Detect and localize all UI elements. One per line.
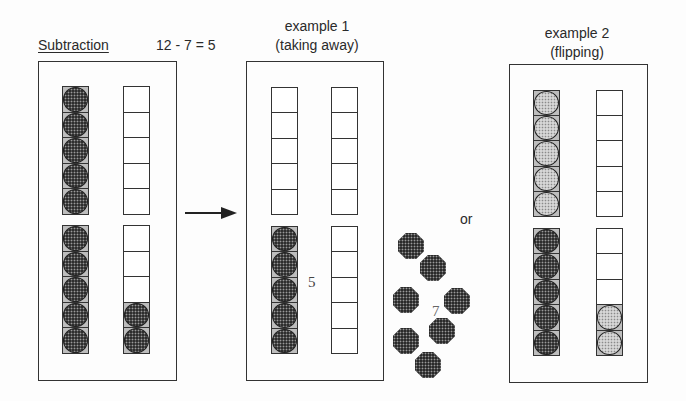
empty-cell — [332, 227, 357, 251]
filled-cell — [272, 328, 297, 353]
empty-cell — [272, 163, 297, 188]
empty-cell — [272, 138, 297, 163]
example1-subtitle: (taking away) — [262, 37, 372, 53]
example2-subtitle: (flipping) — [522, 44, 632, 60]
dark-counter-icon — [534, 229, 559, 253]
filled-cell — [63, 327, 88, 353]
dark-counter-icon — [63, 138, 88, 163]
empty-cell — [332, 302, 357, 327]
filled-cell — [63, 137, 88, 163]
dark-counter-icon — [124, 328, 149, 353]
empty-cell — [597, 91, 622, 115]
dark-counter-icon — [272, 303, 297, 327]
filled-cell — [534, 330, 559, 355]
example1-title: example 1 — [262, 18, 372, 34]
dark-counter-icon — [63, 277, 88, 302]
filled-cell — [272, 227, 297, 251]
dark-counter-icon — [63, 328, 88, 353]
empty-cell — [332, 138, 357, 163]
light-counter-icon — [534, 141, 559, 165]
filled-cell — [63, 251, 88, 277]
five-frame-column — [271, 226, 298, 354]
five-frame-column — [596, 90, 623, 217]
five-frame-column — [123, 86, 150, 215]
empty-cell — [124, 87, 149, 112]
filled-cell — [124, 302, 149, 328]
filled-cell — [272, 251, 297, 276]
dark-counter-icon — [272, 329, 297, 353]
example2-title: example 2 — [522, 25, 632, 41]
empty-cell — [124, 226, 149, 251]
empty-cell — [332, 251, 357, 276]
dark-counter-icon — [63, 113, 88, 138]
light-counter-icon — [597, 331, 622, 355]
filled-cell — [534, 91, 559, 115]
filled-cell — [124, 327, 149, 353]
five-frame-column — [533, 90, 560, 217]
panel-example2 — [509, 64, 648, 383]
empty-cell — [124, 112, 149, 138]
light-counter-icon — [534, 192, 559, 216]
panel-start — [38, 61, 177, 381]
five-frame-column — [331, 226, 358, 354]
equation-label: 12 - 7 = 5 — [156, 37, 216, 53]
filled-cell — [63, 226, 88, 251]
filled-cell — [63, 188, 88, 214]
empty-cell — [597, 191, 622, 216]
filled-cell — [272, 277, 297, 302]
five-frame-column — [331, 87, 358, 215]
dark-counter-icon — [534, 305, 559, 329]
five-frame-column — [62, 86, 89, 215]
dark-counter-icon — [534, 280, 559, 304]
five-frame-column — [271, 87, 298, 215]
light-counter-icon — [534, 116, 559, 140]
filled-cell — [534, 140, 559, 165]
empty-cell — [124, 188, 149, 214]
empty-cell — [124, 163, 149, 189]
empty-cell — [597, 279, 622, 304]
filled-cell — [597, 304, 622, 329]
loose-counter-icon — [398, 233, 424, 259]
empty-cell — [124, 251, 149, 277]
light-counter-icon — [597, 305, 622, 329]
right-arrow-icon — [183, 205, 239, 221]
five-frame-column — [123, 225, 150, 354]
empty-cell — [332, 163, 357, 188]
light-counter-icon — [534, 167, 559, 191]
loose-counter-icon — [393, 287, 419, 313]
dark-counter-icon — [63, 252, 88, 277]
five-frame-column — [62, 225, 89, 354]
light-counter-icon — [534, 91, 559, 115]
loose-counter-icon — [444, 288, 470, 314]
empty-cell — [332, 277, 357, 302]
filled-cell — [63, 302, 88, 328]
dark-counter-icon — [272, 227, 297, 251]
empty-cell — [272, 189, 297, 214]
loose-counter-icon — [429, 318, 455, 344]
dark-counter-icon — [63, 226, 88, 251]
filled-cell — [63, 163, 88, 189]
empty-cell — [332, 112, 357, 137]
dark-counter-icon — [63, 303, 88, 328]
filled-cell — [534, 191, 559, 216]
filled-cell — [534, 115, 559, 140]
filled-cell — [534, 304, 559, 329]
empty-cell — [332, 189, 357, 214]
filled-cell — [534, 253, 559, 278]
empty-cell — [332, 88, 357, 112]
empty-cell — [597, 115, 622, 140]
empty-cell — [272, 88, 297, 112]
empty-cell — [597, 229, 622, 253]
filled-cell — [534, 279, 559, 304]
filled-cell — [63, 276, 88, 302]
five-frame-column — [596, 228, 623, 356]
filled-cell — [272, 302, 297, 327]
loose-counter-icon — [393, 328, 419, 354]
empty-cell — [597, 253, 622, 278]
filled-cell — [597, 330, 622, 355]
filled-cell — [63, 87, 88, 112]
filled-cell — [534, 166, 559, 191]
empty-cell — [124, 137, 149, 163]
dark-counter-icon — [534, 331, 559, 355]
or-label: or — [460, 211, 472, 227]
